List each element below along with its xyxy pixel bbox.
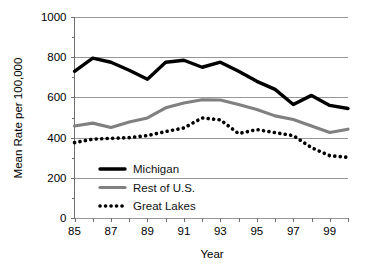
y-tick-label-800: 800 [47, 51, 66, 63]
series-line-rest-of-us [75, 100, 349, 133]
y-tick-labels-group: 02004006008001000 [41, 11, 67, 224]
x-tick-label-95: 95 [250, 225, 263, 237]
x-tick-label-93: 93 [214, 225, 227, 237]
y-tick-label-200: 200 [47, 172, 66, 184]
y-tick-label-0: 0 [60, 212, 66, 224]
x-tick-label-87: 87 [105, 225, 118, 237]
chart-container: 02004006008001000 8587899193959799 Mean … [0, 0, 368, 273]
x-axis-title: Year [200, 248, 223, 260]
line-chart: 02004006008001000 8587899193959799 Mean … [0, 0, 368, 273]
x-tick-label-99: 99 [323, 225, 336, 237]
x-tick-labels-group: 8587899193959799 [68, 225, 336, 237]
legend-label-great-lakes: Great Lakes [133, 200, 196, 212]
x-tick-label-89: 89 [141, 225, 154, 237]
y-tick-label-400: 400 [47, 132, 66, 144]
legend-label-michigan: Michigan [133, 163, 179, 175]
series-group [75, 58, 349, 157]
y-tick-label-1000: 1000 [41, 11, 67, 23]
x-tick-label-85: 85 [68, 225, 81, 237]
x-tick-label-97: 97 [287, 225, 300, 237]
x-tick-label-91: 91 [178, 225, 191, 237]
y-axis-title: Mean Rate per 100,000 [12, 58, 24, 179]
y-tick-label-600: 600 [47, 91, 66, 103]
legend-label-rest-of-us: Rest of U.S. [133, 182, 195, 194]
legend: MichiganRest of U.S.Great Lakes [100, 163, 196, 212]
